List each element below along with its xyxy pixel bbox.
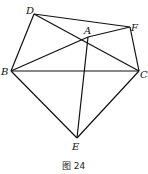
figure-caption: 图 24 (62, 161, 86, 171)
segment-AE (77, 37, 88, 138)
segment-DF (34, 14, 130, 27)
point-label-A: A (83, 25, 91, 36)
segment-EC (77, 71, 139, 138)
point-label-C: C (140, 69, 148, 80)
segments (11, 14, 139, 138)
point-label-B: B (0, 66, 8, 77)
segment-FC (130, 27, 139, 71)
geometry-figure: D F A B C E 图 24 (0, 0, 148, 174)
point-label-F: F (130, 22, 139, 33)
point-label-E: E (71, 141, 80, 152)
point-label-D: D (25, 5, 34, 16)
segment-BE (11, 71, 77, 138)
segment-AF (88, 27, 130, 37)
segment-DC (34, 14, 139, 71)
